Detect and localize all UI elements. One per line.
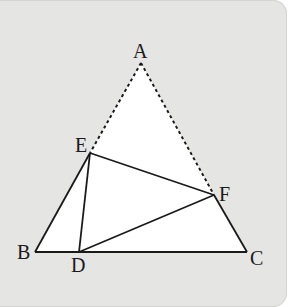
triangle-diagram: A E F B D C <box>0 0 300 307</box>
label-a: A <box>133 40 148 62</box>
label-d: D <box>71 254 85 276</box>
label-c: C <box>250 247 263 269</box>
label-e: E <box>75 134 87 156</box>
label-f: F <box>219 183 230 205</box>
label-b: B <box>17 241 30 263</box>
